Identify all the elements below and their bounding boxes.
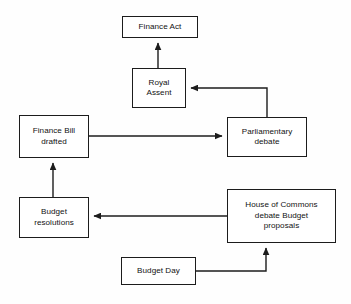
node-royal-assent[interactable]: Royal Assent [132,68,186,108]
node-house-of-commons-debate[interactable]: House of Commons debate Budget proposals [227,189,336,243]
node-budget-resolutions[interactable]: Budget resolutions [19,197,89,238]
edge-budget-day-to-house-of-commons [196,248,266,271]
flowchart-canvas: Finance Act Royal Assent Finance Bill dr… [0,0,351,304]
node-parliamentary-debate[interactable]: Parliamentary debate [227,117,307,157]
node-finance-act[interactable]: Finance Act [122,16,198,38]
node-finance-bill-drafted[interactable]: Finance Bill drafted [19,115,89,158]
edge-parliamentary-debate-to-royal-assent [191,88,267,117]
node-budget-day[interactable]: Budget Day [121,257,196,285]
